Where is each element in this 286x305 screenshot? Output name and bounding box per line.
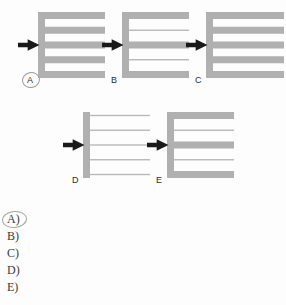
figure-e[interactable]: E: [146, 110, 236, 190]
figure-c-row-1-thick: [213, 12, 285, 19]
figure-a[interactable]: A: [17, 10, 107, 90]
figure-d-row-2-thin: [90, 130, 151, 131]
figure-e-label: E: [156, 176, 162, 185]
figure-c-row-5-thick: [213, 71, 285, 78]
figure-c[interactable]: C: [185, 10, 286, 90]
right-arrow-icon: [18, 39, 40, 51]
answer-option-d[interactable]: D): [5, 262, 33, 279]
figure-a-label: A: [27, 76, 33, 85]
figure-d[interactable]: D: [62, 110, 152, 190]
figure-d-row-5-thin: [90, 174, 151, 175]
figure-d-row-1-thin: [90, 115, 151, 116]
figure-d-row-4-thin: [90, 159, 151, 160]
answer-option-a[interactable]: A): [5, 211, 33, 228]
figure-b-row-3-thick: [129, 42, 190, 49]
figure-b-label: B: [111, 76, 117, 85]
figure-c-row-4-thick: [213, 56, 285, 63]
right-arrow-icon: [186, 39, 208, 51]
figure-c-row-2-thick: [213, 27, 285, 34]
answer-options-list: A)B)C)D)E): [5, 211, 33, 296]
figure-d-label: D: [72, 176, 79, 185]
figure-c-row-3-thick: [213, 42, 285, 49]
figure-b-row-5-thick: [129, 71, 190, 78]
figure-b-row-2-thin: [129, 30, 190, 31]
figure-a-row-4-thick: [45, 56, 106, 63]
figure-c-label: C: [195, 76, 202, 85]
figure-d-row-3-thin: [90, 144, 151, 145]
figure-a-row-2-thick: [45, 27, 106, 34]
figure-b-row-1-thick: [129, 12, 190, 19]
figure-b[interactable]: B: [101, 10, 191, 90]
figure-e-row-4-thin: [174, 159, 235, 160]
right-arrow-icon: [63, 139, 85, 151]
right-arrow-icon: [147, 139, 169, 151]
answer-option-e[interactable]: E): [5, 279, 33, 296]
right-arrow-icon: [102, 39, 124, 51]
worksheet-canvas: ABCDE A)B)C)D)E): [0, 0, 286, 305]
figure-b-row-4-thin: [129, 59, 190, 60]
figure-a-row-1-thick: [45, 12, 106, 19]
figure-e-row-2-thin: [174, 130, 235, 131]
figure-e-row-1-thick: [174, 112, 235, 119]
figure-a-row-3-thick: [45, 42, 106, 49]
figure-a-row-5-thick: [45, 71, 106, 78]
answer-option-c[interactable]: C): [5, 245, 33, 262]
figure-e-row-3-thick: [174, 142, 235, 149]
answer-option-b[interactable]: B): [5, 228, 33, 245]
figure-e-row-5-thick: [174, 171, 235, 178]
